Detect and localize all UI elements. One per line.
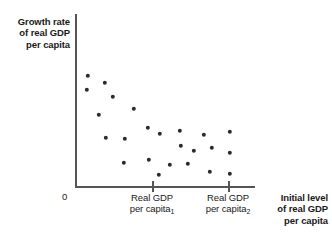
scatter-point xyxy=(122,161,126,165)
scatter-point xyxy=(103,81,107,85)
x-axis-tick-2 xyxy=(228,181,230,192)
scatter-point xyxy=(178,129,182,133)
scatter-point xyxy=(123,137,127,141)
scatter-point xyxy=(202,133,206,137)
scatter-point xyxy=(228,130,232,134)
scatter-point xyxy=(228,172,232,176)
scatter-point xyxy=(192,149,196,153)
x-axis-tick-1 xyxy=(152,181,154,192)
scatter-point xyxy=(86,74,90,78)
scatter-point xyxy=(158,132,162,136)
scatter-point xyxy=(111,95,115,99)
scatter-point xyxy=(179,144,183,148)
y-axis-line xyxy=(75,14,77,187)
x-tick-label-1: Real GDPper capita1 xyxy=(112,192,192,216)
scatter-point xyxy=(168,163,172,167)
scatter-point xyxy=(104,136,108,140)
scatter-point xyxy=(208,170,212,174)
scatter-point xyxy=(97,113,101,117)
tick-subscript-2: 2 xyxy=(246,208,250,215)
scatter-point xyxy=(85,88,89,92)
x-axis-title: Initial levelof real GDPper capita xyxy=(262,192,328,226)
origin-label: 0 xyxy=(62,191,67,202)
scatter-point xyxy=(157,173,161,177)
scatter-point xyxy=(147,158,151,162)
y-axis-title: Growth rateof real GDPper capita xyxy=(8,16,70,50)
scatter-point xyxy=(228,151,232,155)
x-tick-label-2: Real GDPper capita2 xyxy=(188,192,268,216)
tick-subscript-1: 1 xyxy=(170,208,174,215)
scatter-point xyxy=(146,126,150,130)
scatter-chart-figure: Growth rateof real GDPper capita 0 Real … xyxy=(0,0,332,237)
scatter-point xyxy=(132,107,136,111)
scatter-point xyxy=(186,162,190,166)
scatter-point xyxy=(210,146,214,150)
